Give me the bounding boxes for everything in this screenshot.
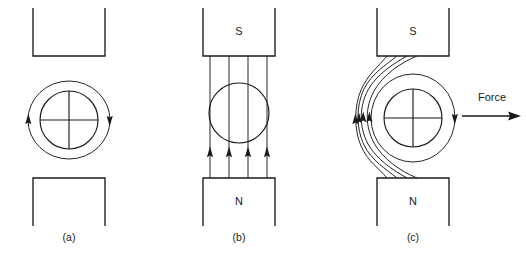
panel-a-bottom-pole [33,178,105,226]
panel-a-top-pole [33,8,105,56]
panel-b: S N (b) [203,8,275,243]
panel-b-bottom-pole-label: N [235,195,243,207]
panel-a-caption: (a) [63,231,76,243]
force-arrow-icon [462,112,521,121]
panel-c-field-arrows [352,112,372,125]
panel-b-field-arrows [207,147,270,158]
panel-c: S N [352,8,521,243]
figure-canvas: (a) S N [0,0,526,256]
panel-c-bottom-pole-label: N [409,195,417,207]
panel-c-top-pole-label: S [409,25,416,37]
physics-figure: (a) S N [0,0,526,256]
panel-c-caption: (c) [407,231,419,243]
panel-b-caption: (b) [233,231,246,243]
panel-b-conductor-circle [209,83,269,143]
force-label: Force [478,91,506,103]
panel-b-field-lines [210,56,267,178]
panel-b-top-pole-label: S [235,25,242,37]
panel-a: (a) [25,8,113,243]
